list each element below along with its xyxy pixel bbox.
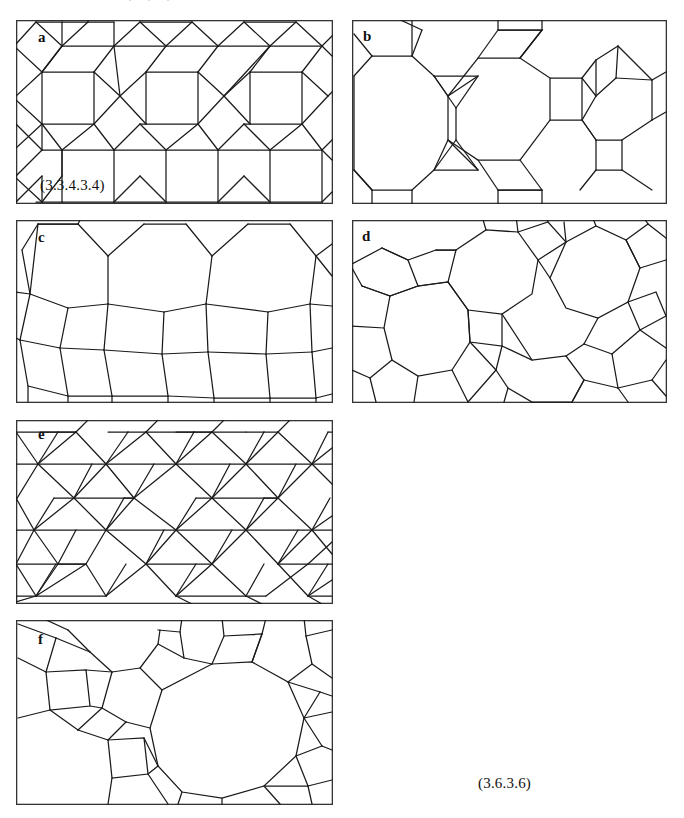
panel-f-label: f [38, 632, 43, 647]
panel-a-label: a [38, 30, 46, 45]
panel-d-drawing [352, 220, 667, 403]
panel-b-drawing [352, 20, 667, 204]
panel-f-frame [17, 621, 333, 805]
panel-e-drawing [16, 420, 333, 604]
panel-b-truncated-hexagonal-tiling: b [352, 20, 667, 204]
panel-b-label: b [363, 29, 371, 44]
cropped-caption-strip: · · · [0, 0, 684, 14]
panel-f-truncated-trihexagonal-tiling: f [16, 620, 333, 805]
panel-e-snub-hexagonal-tiling: e [16, 420, 333, 604]
panel-c-hexagonal-tiling: c [16, 220, 333, 403]
vertex-config-3636: (3.6.3.6) [478, 775, 531, 792]
panel-e-label: e [38, 427, 45, 442]
panel-e-frame [17, 421, 333, 604]
panel-a-vertex-config: (3.3.4.3.4) [40, 177, 105, 194]
cropped-caption-text: · · · [128, 0, 176, 8]
panel-c-drawing [16, 220, 333, 403]
panel-d-truncated-square-tiling: d [352, 220, 667, 403]
panel-d-frame [353, 221, 667, 403]
panel-a-frame [17, 21, 333, 204]
panel-f-drawing [16, 620, 333, 805]
panel-d-label: d [362, 229, 370, 244]
tessellation-figure: · · · [0, 0, 684, 818]
panel-a-snub-square-tiling: a (3.3.4.3.4) [16, 20, 333, 204]
panel-c-label: c [38, 230, 45, 245]
